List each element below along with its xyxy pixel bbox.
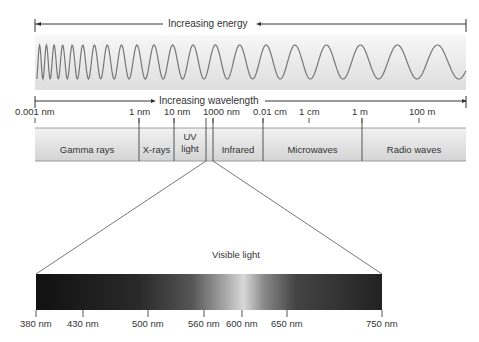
band-label: Microwaves (263, 144, 362, 155)
wave-panel (35, 35, 466, 90)
band-label: X-rays (139, 144, 174, 155)
visible-tick-label: 650 nm (271, 318, 303, 329)
wavelength-tick-label: 1000 nm (203, 106, 240, 117)
wavelength-tick-label: 1 m (352, 106, 368, 117)
visible-tick-label: 750 nm (366, 318, 398, 329)
visible-tick-label: 380 nm (20, 318, 52, 329)
energy-arrow (35, 19, 466, 32)
wavelength-tick-label: 100 m (409, 106, 435, 117)
visible-tick-label: 600 nm (226, 318, 258, 329)
band-label: Radio waves (362, 144, 466, 155)
band-label: UVlight (174, 131, 206, 155)
wavelength-tick-label: 0.01 cm (253, 106, 287, 117)
wavelength-tick-label: 0.001 nm (15, 106, 55, 117)
wavelength-tick-label: 10 nm (164, 106, 190, 117)
energy-label: Increasing energy (168, 18, 248, 29)
visible-tick-label: 560 nm (188, 318, 220, 329)
band-label: Infrared (213, 144, 263, 155)
band-label: Gamma rays (35, 144, 139, 155)
wavelength-tick-label: 1 nm (129, 106, 150, 117)
wavelength-tick-label: 1 cm (299, 106, 320, 117)
wavelength-label: Increasing wavelength (159, 95, 259, 106)
funnel-left-line (36, 161, 206, 274)
visible-spectrum-bar (36, 274, 382, 310)
visible-tick-label: 500 nm (132, 318, 164, 329)
spectrum-diagram (0, 0, 479, 342)
visible-tick-label: 430 nm (67, 318, 99, 329)
visible-light-title: Visible light (212, 249, 260, 260)
